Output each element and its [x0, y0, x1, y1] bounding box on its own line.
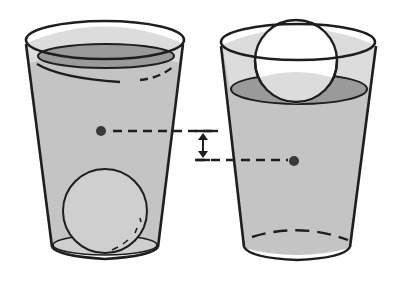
height-difference-arrow — [198, 133, 208, 158]
left-marker-dot — [96, 126, 106, 136]
left-sphere — [63, 169, 147, 253]
right-marker-dot — [289, 156, 299, 166]
right-cup — [221, 20, 376, 260]
left-cup — [26, 21, 184, 259]
diagram-canvas — [0, 0, 401, 292]
